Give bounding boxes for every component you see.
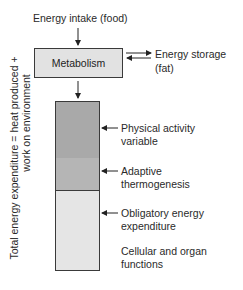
cellular-functions-label: Cellular and organ — [121, 245, 207, 257]
physical-activity-label-2: variable — [121, 135, 158, 147]
physical-activity-segment — [56, 102, 99, 159]
metabolism-label: Metabolism — [52, 57, 106, 69]
total-expenditure-label: Total energy expenditure = heat produced… — [9, 56, 32, 259]
metabolism-box: Metabolism — [34, 48, 123, 78]
total-expenditure-line1: Total energy expenditure = heat produced… — [9, 56, 21, 259]
energy-storage-fat-label: (fat) — [155, 62, 174, 74]
obligatory-label: Obligatory energy — [121, 207, 204, 219]
expenditure-column — [55, 101, 100, 271]
total-expenditure-line2: work on environment — [20, 56, 32, 259]
obligatory-label-2: expenditure — [121, 220, 176, 232]
energy-storage-label: Energy storage — [155, 48, 226, 60]
adaptive-label: Adaptive — [121, 165, 162, 177]
adaptive-label-2: thermogenesis — [121, 178, 190, 190]
obligatory-expenditure-segment — [56, 191, 99, 270]
energy-intake-label: Energy intake (food) — [33, 12, 128, 24]
cellular-functions-label-2: functions — [121, 258, 163, 270]
adaptive-thermogenesis-segment — [56, 158, 99, 191]
physical-activity-label: Physical activity — [121, 122, 195, 134]
